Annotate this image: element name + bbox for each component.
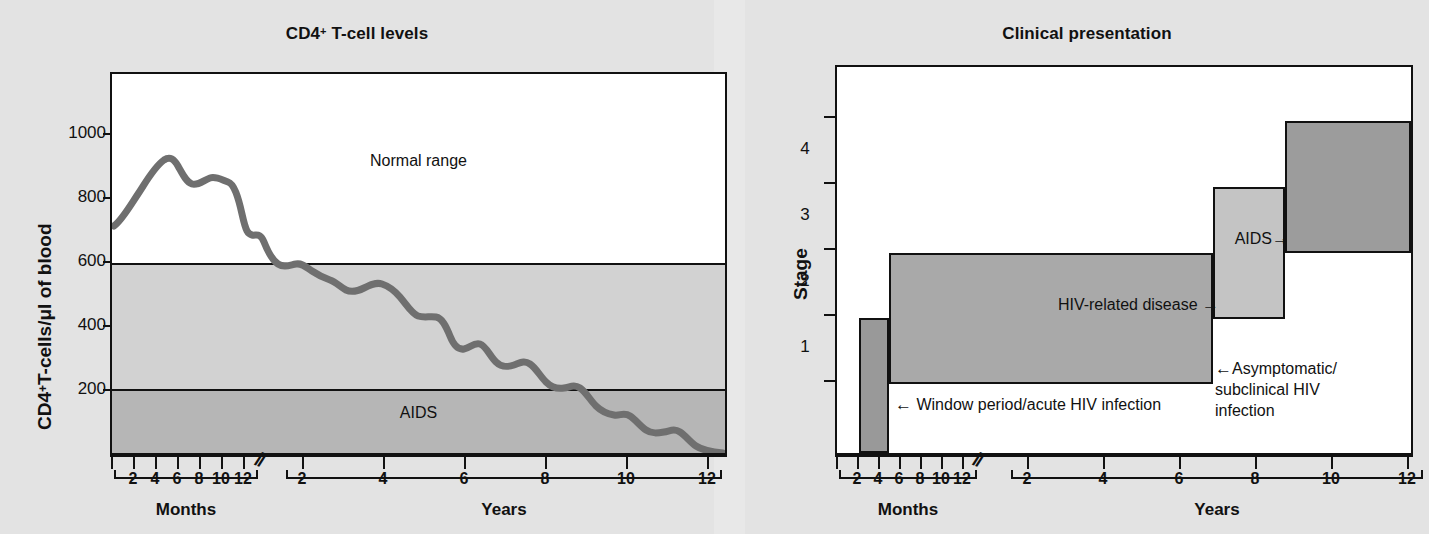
clinical-plot-area: AIDS→ HIV-related disease → ←Asymptomati… <box>835 65 1413 455</box>
clinical-panel: Clinical presentation Stage 4 3 2 1 AIDS… <box>745 0 1429 534</box>
cd4-xtick-m12 <box>243 455 245 469</box>
clinical-xtick-m2 <box>857 455 859 469</box>
cd4-title-rest: T-cell levels <box>327 24 429 43</box>
stage-ytick-mark-3 <box>824 248 835 250</box>
cd4-months-group-label: Months <box>114 500 258 520</box>
clinical-xtick-m4 <box>878 455 880 469</box>
cd4-xtick-y10 <box>626 455 628 469</box>
stage-bar-2-asymptomatic <box>889 253 1213 384</box>
cd4-ytick-label-400: 400 <box>44 315 106 335</box>
cd4-years-group-label: Years <box>286 500 722 520</box>
cd4-x-axis-line <box>110 455 727 457</box>
clinical-xtick-y10 <box>1331 455 1333 469</box>
cd4-xtick-m2 <box>133 455 135 469</box>
aids-annotation-arrow-icon: → <box>1272 229 1289 248</box>
clinical-xtick-m0 <box>836 455 838 469</box>
cd4-months-bracket <box>114 470 258 479</box>
cd4-xtick-m0 <box>111 455 113 469</box>
cd4-ytick-label-600: 600 <box>44 251 106 271</box>
cd4-ytick-label-1000: 1000 <box>44 123 106 143</box>
stage-bar-1-window-period <box>859 318 889 453</box>
clinical-xtick-m12 <box>962 455 964 469</box>
cd4-title-main: CD4 <box>286 24 320 43</box>
aids-annotation: AIDS→ <box>1095 208 1289 250</box>
stage-ytick-mark-1 <box>824 380 835 382</box>
cd4-panel: CD4+ T-cell levels CD4+T-cells/μl of blo… <box>0 0 714 534</box>
cd4-xtick-m10 <box>221 455 223 469</box>
clinical-panel-title: Clinical presentation <box>745 24 1429 44</box>
stage-ytick-label-3: 3 <box>793 205 817 225</box>
hiv-related-disease-annotation-label: HIV-related disease <box>1058 296 1198 313</box>
cd4-xtick-y8 <box>545 455 547 469</box>
hiv-related-disease-annotation-arrow-icon: → <box>1202 295 1219 314</box>
cd4-xtick-y12 <box>707 455 709 469</box>
clinical-xtick-y6 <box>1179 455 1181 469</box>
window-period-annotation-label: Window period/acute HIV infection <box>916 396 1161 413</box>
stage-ytick-label-2: 2 <box>793 271 817 291</box>
clinical-xtick-y4 <box>1103 455 1105 469</box>
window-period-annotation-arrow-icon: ← <box>895 395 912 414</box>
clinical-xtick-m6 <box>899 455 901 469</box>
aids-annotation-label: AIDS <box>1235 230 1272 247</box>
stage-bar-4-aids <box>1285 121 1411 253</box>
cd4-xtick-y2 <box>302 455 304 469</box>
cd4-xtick-m6 <box>177 455 179 469</box>
clinical-xtick-y8 <box>1255 455 1257 469</box>
clinical-xtick-m8 <box>920 455 922 469</box>
clinical-xtick-y12 <box>1407 455 1409 469</box>
clinical-years-group-label: Years <box>1011 500 1423 520</box>
asymptomatic-annotation-label: Asymptomatic/ subclinical HIV infection <box>1215 360 1337 418</box>
cd4-y-title-rest: T-cells/μl of blood <box>34 223 55 385</box>
stage-ytick-label-4: 4 <box>793 139 817 159</box>
clinical-years-bracket <box>1011 470 1423 479</box>
cd4-years-bracket <box>286 470 722 479</box>
hiv-related-disease-annotation: HIV-related disease → <box>923 274 1219 316</box>
cd4-panel-title: CD4+ T-cell levels <box>0 24 714 44</box>
cd4-xtick-m8 <box>199 455 201 469</box>
stage-ytick-mark-top <box>824 116 835 118</box>
cd4-count-curve <box>112 74 725 453</box>
cd4-ytick-label-800: 800 <box>44 187 106 207</box>
cd4-xtick-y4 <box>383 455 385 469</box>
cd4-xtick-y6 <box>464 455 466 469</box>
clinical-xtick-m10 <box>941 455 943 469</box>
cd4-plot-area: Normal range AIDS <box>110 72 727 455</box>
stage-bar-3-hiv-related-disease <box>1213 187 1285 319</box>
clinical-months-group-label: Months <box>839 500 977 520</box>
cd4-ytick-label-200: 200 <box>44 379 106 399</box>
cd4-xtick-m4 <box>155 455 157 469</box>
stage-ytick-mark-4 <box>824 182 835 184</box>
stage-ytick-label-1: 1 <box>793 337 817 357</box>
window-period-annotation: ← Window period/acute HIV infection <box>895 374 1225 416</box>
hiv-progression-figure: CD4+ T-cell levels CD4+T-cells/μl of blo… <box>0 0 1429 534</box>
stage-ytick-mark-2 <box>824 314 835 316</box>
clinical-xtick-y2 <box>1027 455 1029 469</box>
clinical-months-bracket <box>839 470 977 479</box>
asymptomatic-annotation: ←Asymptomatic/ subclinical HIV infection <box>1215 338 1405 421</box>
